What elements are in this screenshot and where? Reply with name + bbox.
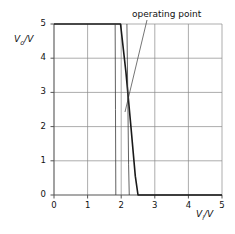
- y-tick-label: 5: [28, 18, 46, 28]
- annotation-operating-point: operating point: [132, 9, 201, 19]
- x-axis-label-text: Vi/V: [196, 209, 213, 219]
- x-tick-label: 3: [145, 200, 165, 210]
- x-tick-label: 4: [178, 200, 198, 210]
- y-axis-label: Vo/V: [14, 34, 33, 47]
- x-tick-label: 2: [111, 200, 131, 210]
- annotation-leader-line: [125, 20, 147, 112]
- y-tick-label: 1: [28, 155, 46, 165]
- y-axis-label-text: Vo/V: [14, 34, 33, 44]
- y-tick-label: 0: [28, 189, 46, 199]
- x-axis-label: Vi/V: [196, 209, 213, 222]
- x-tick-label: 1: [78, 200, 98, 210]
- y-tick-label: 4: [28, 52, 46, 62]
- figure-transfer-characteristic: Vo/V Vi/V operating point 012345012345: [0, 0, 235, 234]
- y-tick-label: 3: [28, 86, 46, 96]
- y-tick-label: 2: [28, 121, 46, 131]
- curve-primary: [54, 24, 222, 195]
- x-tick-label: 0: [44, 200, 64, 210]
- curve-load: [115, 24, 116, 195]
- x-tick-label: 5: [212, 200, 232, 210]
